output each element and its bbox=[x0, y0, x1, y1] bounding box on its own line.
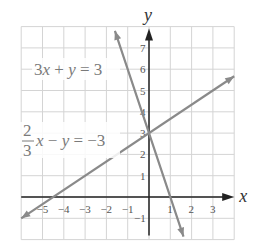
x-tick-label: −4 bbox=[58, 203, 70, 215]
equation-label-2: x − y = −3 bbox=[35, 131, 105, 150]
y-axis-arrow-icon bbox=[145, 29, 153, 41]
y-tick-label: −1 bbox=[134, 212, 146, 224]
y-tick-label: 6 bbox=[140, 63, 146, 75]
x-tick-label: −3 bbox=[79, 203, 91, 215]
line-arrow-icon bbox=[114, 31, 121, 41]
y-tick-label: 5 bbox=[140, 85, 146, 97]
equation-2-numerator: 2 bbox=[23, 121, 32, 140]
y-tick-label: 2 bbox=[140, 148, 146, 160]
coordinate-graph: −5−4−3−2−1123−11234567 x y 3x + y = 3 2 … bbox=[0, 0, 260, 249]
x-tick-label: −2 bbox=[100, 203, 112, 215]
line-arrow-icon bbox=[177, 227, 184, 237]
line-arrow-icon bbox=[225, 76, 234, 84]
line-arrow-icon bbox=[21, 210, 30, 218]
y-tick-label: 1 bbox=[140, 170, 146, 182]
equation-label-1: 3x + y = 3 bbox=[34, 60, 102, 79]
x-tick-label: −1 bbox=[122, 203, 134, 215]
equation-2-denominator: 3 bbox=[23, 141, 32, 160]
x-axis-label: x bbox=[238, 186, 247, 206]
y-axis-label: y bbox=[142, 5, 152, 25]
x-axis-arrow-icon bbox=[222, 193, 234, 201]
x-tick-label: 2 bbox=[189, 203, 195, 215]
x-tick-label: 3 bbox=[210, 203, 216, 215]
y-tick-label: 7 bbox=[140, 42, 146, 54]
